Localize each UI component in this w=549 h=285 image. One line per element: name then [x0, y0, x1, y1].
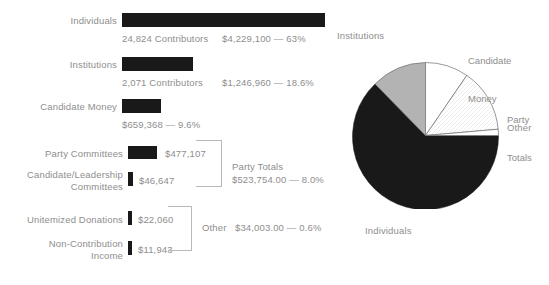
pie-label-party-totals-line2: Totals [507, 152, 532, 165]
pie-label-party-totals: Party Totals [507, 89, 532, 189]
pie-label-candidate-money-line2: Money [468, 93, 511, 106]
bar-individuals [122, 13, 325, 27]
bar-row-label-party-committees: Party Committees [0, 148, 123, 160]
bracket-party-totals [196, 140, 222, 187]
pie-label-other: Other [507, 122, 532, 134]
bar-row-label-candidate-leadership-committees-line2: Committees [0, 181, 123, 193]
bar-amount-individuals: $4,229,100 — 63% [222, 33, 306, 45]
bar-unitemized-donations [128, 211, 132, 225]
bar-row-label-unitemized-donations: Unitemized Donations [0, 214, 123, 226]
bar-row-label-non-contribution-income-line2: Income [0, 250, 123, 262]
bracket-other [168, 206, 192, 251]
pie-label-candidate-money-line1: Candidate [468, 55, 511, 68]
pie-chart: Institutions Candidate Money Party Total… [352, 62, 499, 209]
bar-row-label-institutions: Institutions [0, 59, 117, 71]
group-amount-party-totals: $523,754.00 — 8.0% [232, 174, 324, 186]
bar-party-committees [128, 146, 157, 159]
bar-amount-institutions: $1,246,960 — 18.6% [222, 77, 314, 89]
bar-row-label-individuals: Individuals [0, 15, 117, 27]
bar-amount-candidate-money: $659,368 — 9.6% [122, 119, 200, 131]
bar-candidate-leadership-committees [128, 172, 133, 186]
pie-label-individuals: Individuals [365, 225, 412, 237]
bar-institutions [122, 57, 193, 71]
bar-candidate-money [122, 99, 161, 113]
pie-label-candidate-money: Candidate Money [468, 30, 511, 130]
bar-amount-candidate-leadership-committees: $46,647 [139, 175, 174, 187]
bar-row-label-candidate-money: Candidate Money [0, 101, 117, 113]
bar-contributors-institutions: 2,071 Contributors [122, 77, 203, 89]
infographic-canvas: Individuals 24,824 Contributors $4,229,1… [0, 0, 549, 285]
group-title-other: Other [202, 222, 227, 234]
group-amount-other: $34,003.00 — 0.6% [235, 222, 322, 234]
pie-label-institutions: Institutions [337, 30, 384, 42]
bar-row-label-non-contribution-income: Non-Contribution [0, 238, 123, 250]
bar-contributors-individuals: 24,824 Contributors [122, 33, 208, 45]
group-title-party-totals: Party Totals [232, 161, 283, 173]
bar-row-label-candidate-leadership-committees: Candidate/Leadership [0, 169, 123, 181]
bar-non-contribution-income [128, 241, 132, 255]
